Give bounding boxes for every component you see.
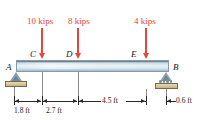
- beam-member: [16, 60, 169, 72]
- dim-label-4-5-ft: 4.5 ft: [102, 96, 118, 105]
- dim-arrowhead-de-left: [79, 99, 83, 103]
- dim-label-1-8-ft: 1.8 ft: [14, 106, 30, 115]
- load-arrow-shaft-10-kips: [41, 28, 43, 55]
- beam-highlight: [17, 63, 168, 69]
- load-arrow-head-4-kips: [143, 53, 149, 59]
- dim-label-2-7-ft: 2.7 ft: [46, 106, 62, 115]
- load-label-4-kips: 4 kips: [134, 16, 156, 26]
- load-arrow-shaft-8-kips: [77, 28, 79, 55]
- load-label-8-kips: 8 kips: [68, 16, 90, 26]
- load-arrow-shaft-4-kips: [145, 28, 147, 55]
- dim-arrowhead-ac-right: [37, 99, 41, 103]
- dim-arrowhead-ac-left: [15, 99, 19, 103]
- node-label-a: A: [6, 62, 12, 72]
- support-a-ground-block: [5, 81, 27, 87]
- beam-diagram-figure: 10 kips 8 kips 4 kips A C D E B: [0, 0, 203, 120]
- dim-arrowhead-cd-left: [43, 99, 47, 103]
- dim-arrowhead-de-right: [141, 99, 145, 103]
- node-label-b: B: [173, 62, 179, 72]
- leader-line-c: [42, 72, 43, 99]
- node-label-e: E: [131, 49, 137, 59]
- node-label-c: C: [30, 49, 36, 59]
- dim-tick-e: [146, 96, 147, 105]
- dim-line-cd: [43, 101, 77, 102]
- dim-arrowhead-cd-right: [73, 99, 77, 103]
- leader-line-d: [78, 72, 79, 99]
- load-label-10-kips: 10 kips: [27, 16, 53, 26]
- dim-label-0-6-ft: 0.6 ft: [176, 96, 192, 105]
- load-arrow-head-10-kips: [39, 53, 45, 59]
- beam-top-edge: [17, 61, 168, 62]
- node-label-d: D: [66, 49, 73, 59]
- load-arrow-head-8-kips: [75, 53, 81, 59]
- dim-arrowhead-eb-left: [167, 99, 171, 103]
- pin-triangle-inner: [12, 75, 20, 81]
